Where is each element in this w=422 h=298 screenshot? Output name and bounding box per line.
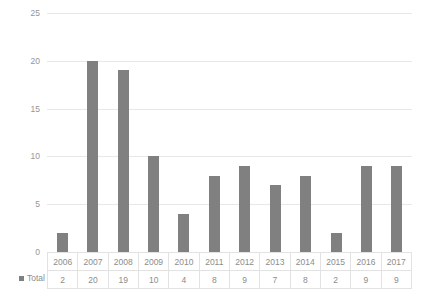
table-data-cell: 8 xyxy=(290,271,320,289)
bar xyxy=(57,233,68,252)
table-data-cell: 2 xyxy=(48,271,78,289)
table-header-cell: 2012 xyxy=(229,253,259,271)
table-row: 220191048978299 xyxy=(48,271,412,289)
table-header-cell: 2016 xyxy=(351,253,381,271)
bar-slot xyxy=(77,13,107,252)
data-table: 2006200720082009201020112012201320142015… xyxy=(47,252,412,289)
table-data-cell: 9 xyxy=(381,271,411,289)
table-data-cell: 20 xyxy=(78,271,108,289)
bar xyxy=(270,185,281,252)
y-axis-tick-label: 25 xyxy=(8,9,40,18)
bar xyxy=(361,166,372,252)
table-header-cell: 2011 xyxy=(199,253,229,271)
plot-area xyxy=(47,13,412,252)
bar xyxy=(178,214,189,252)
table-data-cell: 4 xyxy=(169,271,199,289)
bar xyxy=(118,70,129,252)
y-axis-tick-label: 10 xyxy=(8,152,40,161)
bar xyxy=(331,233,342,252)
y-axis-tick-label: 5 xyxy=(8,200,40,209)
bar-chart: 0510152025 Total 20062007200820092010201… xyxy=(0,0,422,298)
table-header-cell: 2008 xyxy=(108,253,138,271)
bar-slot xyxy=(138,13,168,252)
table-header-cell: 2006 xyxy=(48,253,78,271)
table-data-cell: 19 xyxy=(108,271,138,289)
table-data-cell: 8 xyxy=(199,271,229,289)
table-header-cell: 2017 xyxy=(381,253,411,271)
bar-series-total xyxy=(47,13,412,252)
table-header-cell: 2009 xyxy=(138,253,168,271)
bar-slot xyxy=(321,13,351,252)
bar-slot xyxy=(47,13,77,252)
legend-swatch-icon xyxy=(19,276,24,281)
legend-item-total: Total xyxy=(0,269,47,287)
table-header-cell: 2014 xyxy=(290,253,320,271)
bar-slot xyxy=(351,13,381,252)
bar-slot xyxy=(199,13,229,252)
y-axis-tick-label: 20 xyxy=(8,57,40,66)
table-data-cell: 2 xyxy=(320,271,350,289)
bar xyxy=(87,61,98,252)
y-axis-tick-label: 15 xyxy=(8,105,40,114)
table-header-cell: 2007 xyxy=(78,253,108,271)
table-header-cell: 2010 xyxy=(169,253,199,271)
bar-slot xyxy=(382,13,412,252)
bar-slot xyxy=(260,13,290,252)
table-data-cell: 10 xyxy=(138,271,168,289)
legend-label: Total xyxy=(27,273,45,283)
bar xyxy=(300,176,311,252)
y-axis-tick-label: 0 xyxy=(8,248,40,257)
bar xyxy=(239,166,250,252)
bar-slot xyxy=(108,13,138,252)
bar xyxy=(209,176,220,252)
bar xyxy=(148,156,159,252)
table-header-cell: 2015 xyxy=(320,253,350,271)
bar xyxy=(391,166,402,252)
table-header-cell: 2013 xyxy=(260,253,290,271)
table-row: 2006200720082009201020112012201320142015… xyxy=(48,253,412,271)
bar-slot xyxy=(230,13,260,252)
bar-slot xyxy=(290,13,320,252)
bar-slot xyxy=(169,13,199,252)
table-data-cell: 9 xyxy=(351,271,381,289)
table-data-cell: 9 xyxy=(229,271,259,289)
table-data-cell: 7 xyxy=(260,271,290,289)
